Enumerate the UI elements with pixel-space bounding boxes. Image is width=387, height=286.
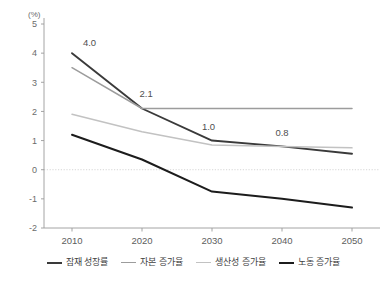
y-tick-label: -1 <box>29 194 37 204</box>
y-tick-label: 3 <box>32 78 37 88</box>
legend-item[interactable]: 자본 증가율 <box>121 258 183 267</box>
legend-label: 노동 증가율 <box>298 258 341 267</box>
legend-item[interactable]: 생산성 증가율 <box>196 258 266 267</box>
y-tick-label: -2 <box>29 223 37 233</box>
data-point-label: 0.8 <box>275 127 288 138</box>
legend-label: 자본 증가율 <box>140 258 183 267</box>
x-tick-label: 2020 <box>131 235 152 246</box>
chart-container: (%) -2-1012345 20102020203020402050 4.02… <box>0 0 387 286</box>
legend-swatch <box>121 262 136 263</box>
y-tick-label: 5 <box>32 19 37 29</box>
x-tick-label: 2050 <box>341 235 362 246</box>
y-tick-label: 0 <box>32 165 37 175</box>
legend-label: 생산성 증가율 <box>215 258 266 267</box>
chart-legend: 잠재 성장률자본 증가율생산성 증가율노동 증가율 <box>0 258 387 267</box>
data-point-labels: 4.02.11.00.8 <box>83 37 289 138</box>
legend-item[interactable]: 노동 증가율 <box>279 258 341 267</box>
data-point-label: 4.0 <box>83 37 96 48</box>
series-line <box>72 53 352 154</box>
data-point-label: 1.0 <box>202 121 215 132</box>
legend-item[interactable]: 잠재 성장률 <box>47 258 109 267</box>
x-tick-label: 2040 <box>271 235 292 246</box>
legend-swatch <box>279 262 294 264</box>
x-tick-label: 2030 <box>201 235 222 246</box>
x-tick-label: 2010 <box>61 235 82 246</box>
legend-label: 잠재 성장률 <box>66 258 109 267</box>
line-chart-svg: -2-1012345 20102020203020402050 4.02.11.… <box>0 0 387 286</box>
y-tick-label: 4 <box>32 48 37 58</box>
series-line <box>72 68 352 109</box>
legend-swatch <box>47 262 62 264</box>
y-tick-label: 1 <box>32 136 37 146</box>
x-axis-ticks: 20102020203020402050 <box>61 228 362 246</box>
legend-swatch <box>196 262 211 263</box>
y-axis-ticks: -2-1012345 <box>29 19 44 233</box>
y-tick-label: 2 <box>32 107 37 117</box>
data-point-label: 2.1 <box>140 88 153 99</box>
